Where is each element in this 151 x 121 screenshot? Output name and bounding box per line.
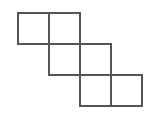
figure-canvas [0, 0, 151, 121]
staircase-hexomino-figure [0, 0, 151, 121]
squares-group [18, 13, 142, 106]
grid-square-r3c4 [111, 75, 142, 106]
grid-square-r3c3 [80, 75, 111, 106]
grid-square-r1c2 [49, 13, 80, 44]
grid-square-r1c1 [18, 13, 49, 44]
grid-square-r2c3 [80, 44, 111, 75]
grid-square-r2c2 [49, 44, 80, 75]
